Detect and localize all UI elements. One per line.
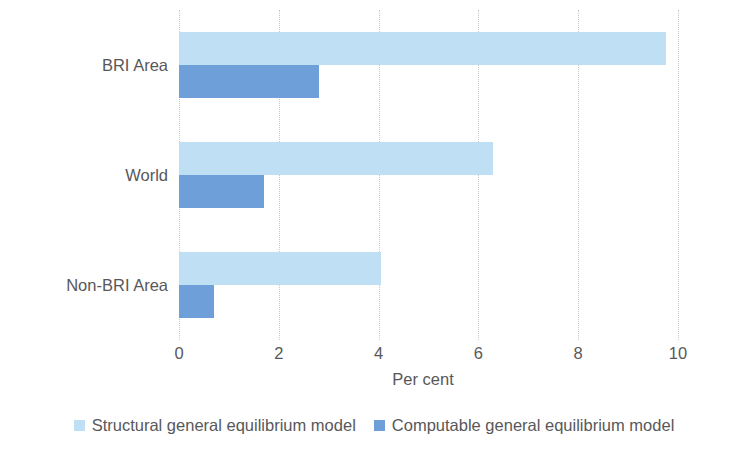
- y-tick-label-world: World: [0, 166, 168, 185]
- x-axis-title: Per cent: [0, 370, 748, 389]
- x-tick-label-6: 6: [474, 344, 483, 363]
- bar-non-bri-area-computable: [179, 285, 214, 318]
- bar-world-structural: [179, 142, 493, 175]
- bar-non-bri-area-structural: [179, 252, 381, 285]
- bar-bri-area-computable: [179, 65, 319, 98]
- chart-legend: Structural general equilibrium model Com…: [0, 416, 748, 435]
- legend-swatch-structural-icon: [74, 420, 85, 431]
- x-tick-label-2: 2: [274, 344, 283, 363]
- legend-item-structural: Structural general equilibrium model: [74, 416, 356, 435]
- bar-bri-area-structural: [179, 32, 666, 65]
- bar-world-computable: [179, 175, 264, 208]
- x-axis-title-text: Per cent: [392, 370, 453, 388]
- x-tick-label-4: 4: [374, 344, 383, 363]
- legend-swatch-computable-icon: [374, 420, 385, 431]
- bar-group-bri-area: [179, 32, 678, 98]
- legend-item-computable: Computable general equilibrium model: [374, 416, 675, 435]
- bar-group-world: [179, 142, 678, 208]
- y-tick-label-non-bri-area: Non-BRI Area: [0, 276, 168, 295]
- y-axis: BRI Area World Non-BRI Area: [0, 10, 168, 340]
- gridline-10: [678, 10, 680, 340]
- x-tick-label-10: 10: [669, 344, 687, 363]
- x-tick-label-0: 0: [174, 344, 183, 363]
- plot-area: [179, 10, 678, 340]
- y-tick-label-bri-area: BRI Area: [0, 56, 168, 75]
- legend-label-computable: Computable general equilibrium model: [392, 416, 675, 435]
- bar-group-non-bri-area: [179, 252, 678, 318]
- legend-label-structural: Structural general equilibrium model: [92, 416, 356, 435]
- x-axis: 0 2 4 6 8 10: [179, 344, 678, 370]
- bar-chart-figure: BRI Area World Non-BRI Area 0 2 4: [0, 0, 748, 450]
- x-tick-label-8: 8: [574, 344, 583, 363]
